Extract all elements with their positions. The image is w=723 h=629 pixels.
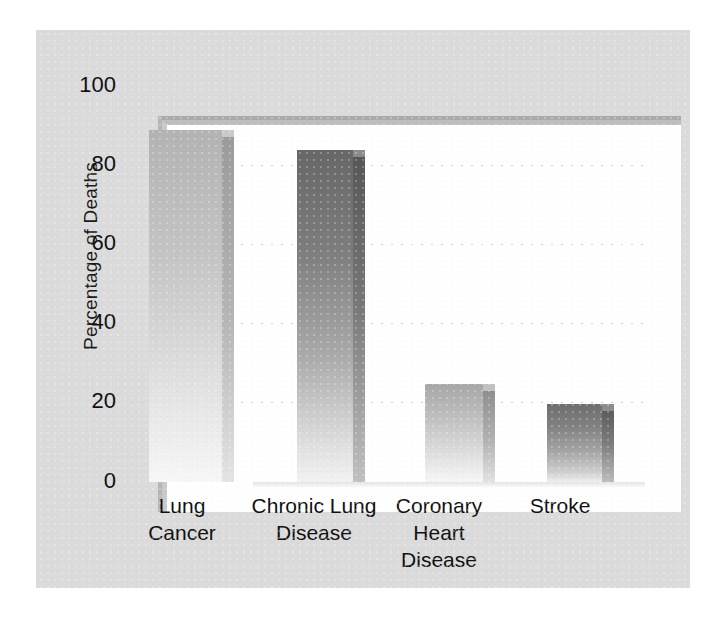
bar-front-face bbox=[547, 404, 602, 482]
bar-stroke[interactable] bbox=[547, 404, 614, 482]
x-category-line-2: Heart bbox=[349, 520, 529, 547]
bar-front-face bbox=[297, 150, 353, 482]
chart-panel: Percentage of Deaths 100 80 60 40 20 0 bbox=[36, 30, 690, 588]
x-category-line-3: Disease bbox=[349, 547, 529, 574]
bar-top-face bbox=[602, 404, 614, 411]
bar-side-face bbox=[353, 157, 365, 482]
bar-top-face bbox=[353, 150, 365, 157]
bar-front-face bbox=[425, 384, 483, 482]
baseline-shadow bbox=[253, 482, 645, 488]
y-tick-label-100: 100 bbox=[62, 74, 116, 96]
figure: Percentage of Deaths 100 80 60 40 20 0 bbox=[0, 0, 723, 629]
bar-coronary-heart-disease[interactable] bbox=[425, 384, 495, 482]
y-tick-label-80: 80 bbox=[62, 153, 116, 175]
bar-side-face bbox=[602, 411, 614, 482]
bar-top-face bbox=[483, 384, 495, 391]
x-category-line-1: Stroke bbox=[470, 493, 650, 520]
plot-area bbox=[122, 86, 645, 482]
y-tick-label-0: 0 bbox=[62, 470, 116, 492]
bar-lung-cancer[interactable] bbox=[149, 130, 234, 482]
bar-side-face bbox=[483, 391, 495, 482]
bar-front-face bbox=[149, 130, 222, 482]
bar-chronic-lung-disease[interactable] bbox=[297, 150, 365, 482]
y-tick-label-40: 40 bbox=[62, 311, 116, 333]
y-tick-label-60: 60 bbox=[62, 232, 116, 254]
y-tick-label-20: 20 bbox=[62, 390, 116, 412]
bar-side-face bbox=[222, 137, 234, 482]
x-category-stroke: Stroke bbox=[470, 493, 650, 520]
bar-top-face bbox=[222, 130, 234, 137]
